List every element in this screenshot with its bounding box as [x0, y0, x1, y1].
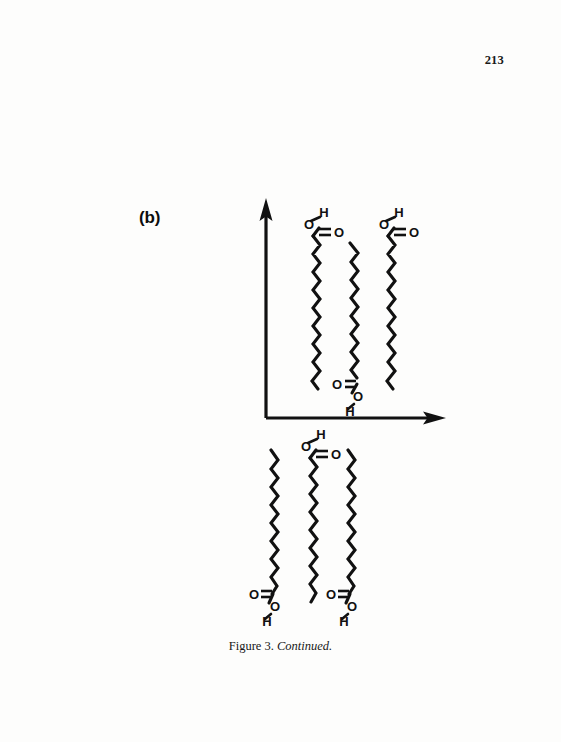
hydrocarbon-chain	[312, 236, 320, 389]
hydrocarbon-chain	[271, 450, 278, 594]
atom-label-hydrogen: H	[394, 205, 403, 220]
carboxyl-head-group: O O H	[249, 587, 280, 629]
carboxyl-head-group: O O H	[326, 587, 357, 629]
lower-group: O O H O H O	[249, 427, 357, 629]
carboxyl-head-group: O H O	[304, 205, 344, 240]
document-page: 213 (b)	[0, 0, 561, 742]
carboxyl-head-group: O H O	[301, 427, 341, 462]
figure-3b-diagram: O H O O O	[0, 0, 561, 742]
atom-label-carbonyl-oxygen: O	[334, 225, 344, 240]
atom-label-hydrogen: H	[262, 614, 271, 629]
hydrocarbon-chain	[350, 243, 358, 378]
atom-label-oxygen: O	[353, 389, 363, 404]
molecule-lower-middle: O H O	[301, 427, 341, 602]
carboxyl-head-group: O H O	[379, 205, 419, 240]
caption-italic: Continued.	[277, 639, 332, 653]
atom-label-hydrogen: H	[339, 614, 348, 629]
atom-label-carbonyl-oxygen: O	[249, 587, 259, 602]
atom-label-oxygen: O	[270, 599, 280, 614]
atom-label-hydrogen: H	[316, 427, 325, 442]
atom-label-carbonyl-oxygen: O	[326, 587, 336, 602]
molecule-lower-right: O O H	[326, 450, 357, 629]
figure-caption: Figure 3. Continued.	[0, 639, 561, 654]
atom-label-carbonyl-oxygen: O	[331, 447, 341, 462]
caption-prefix: Figure 3.	[229, 639, 274, 653]
hydrocarbon-chain	[310, 458, 317, 602]
atom-label-carbonyl-oxygen: O	[332, 377, 342, 392]
hydrocarbon-chain	[348, 450, 355, 594]
upper-group: O H O O O	[304, 205, 419, 419]
atom-label-carbonyl-oxygen: O	[409, 225, 419, 240]
atom-label-hydrogen: H	[319, 205, 328, 220]
molecule-lower-left: O O H	[249, 450, 280, 629]
atom-label-oxygen: O	[347, 599, 357, 614]
carboxyl-head-group: O O H	[332, 377, 363, 419]
hydrocarbon-chain	[387, 236, 395, 389]
molecule-upper-left: O H O	[304, 205, 344, 389]
molecule-upper-middle: O O H	[332, 243, 363, 419]
atom-label-hydrogen: H	[345, 404, 354, 419]
molecule-upper-right: O H O	[379, 205, 419, 389]
